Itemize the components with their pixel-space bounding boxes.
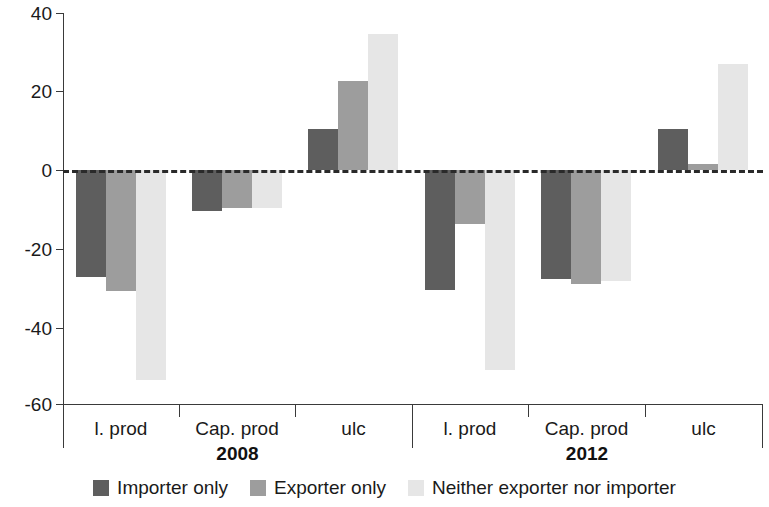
x-axis-edge-tick xyxy=(762,404,763,448)
bars-layer xyxy=(63,12,763,404)
legend-swatch-icon xyxy=(408,480,424,496)
y-tick-label: 20 xyxy=(4,82,52,101)
x-group-label-2008: 2008 xyxy=(63,443,412,465)
y-tick-label: -60 xyxy=(4,395,52,414)
y-tick-mark xyxy=(56,13,63,14)
chart-legend: Importer only Exporter only Neither expo… xyxy=(0,478,769,498)
x-axis-divider xyxy=(528,404,529,417)
x-category-label: l. prod xyxy=(412,418,528,440)
bar-chart: 40 20 0 -20 -40 -60 l. prod Ca xyxy=(0,0,769,507)
bar-capprod-medium xyxy=(222,170,252,208)
bar-lprod-light xyxy=(136,170,166,380)
bar-lprod-medium xyxy=(455,170,485,224)
bar-capprod-light xyxy=(601,170,631,281)
bar-ulc-light xyxy=(368,34,398,170)
bar-capprod-light xyxy=(252,170,282,208)
y-tick-label: 0 xyxy=(4,161,52,180)
legend-label: Exporter only xyxy=(274,478,386,498)
y-tick-mark xyxy=(56,328,63,329)
x-axis-divider xyxy=(295,404,296,417)
y-tick-mark xyxy=(56,170,63,171)
bar-lprod-light xyxy=(485,170,515,370)
legend-swatch-icon xyxy=(250,480,266,496)
x-category-label: Cap. prod xyxy=(179,418,295,440)
zero-baseline xyxy=(63,170,763,173)
bar-capprod-dark xyxy=(541,170,571,279)
y-tick-label: 40 xyxy=(4,4,52,23)
x-category-label: ulc xyxy=(295,418,412,440)
x-category-label: Cap. prod xyxy=(528,418,645,440)
legend-item-importer-only: Importer only xyxy=(93,478,228,498)
x-axis-divider xyxy=(645,404,646,417)
bar-capprod-dark xyxy=(192,170,222,211)
y-tick-mark xyxy=(56,91,63,92)
x-group-label-2012: 2012 xyxy=(412,443,762,465)
x-category-label: ulc xyxy=(645,418,762,440)
legend-label: Importer only xyxy=(117,478,228,498)
y-tick-mark xyxy=(56,249,63,250)
y-tick-label: -40 xyxy=(4,319,52,338)
x-axis-divider xyxy=(179,404,180,417)
legend-label: Neither exporter nor importer xyxy=(432,478,676,498)
bar-ulc-dark xyxy=(308,129,338,170)
bar-ulc-dark xyxy=(658,129,688,170)
legend-item-exporter-only: Exporter only xyxy=(250,478,386,498)
legend-swatch-icon xyxy=(93,480,109,496)
y-tick-mark xyxy=(56,404,63,405)
bar-lprod-dark xyxy=(425,170,455,290)
bar-lprod-medium xyxy=(106,170,136,291)
y-tick-label: -20 xyxy=(4,240,52,259)
x-axis-line xyxy=(63,404,763,405)
legend-item-neither: Neither exporter nor importer xyxy=(408,478,676,498)
bar-ulc-light xyxy=(718,64,748,170)
bar-ulc-medium xyxy=(338,81,368,170)
bar-lprod-dark xyxy=(76,170,106,277)
x-category-label: l. prod xyxy=(63,418,179,440)
bar-capprod-medium xyxy=(571,170,601,284)
